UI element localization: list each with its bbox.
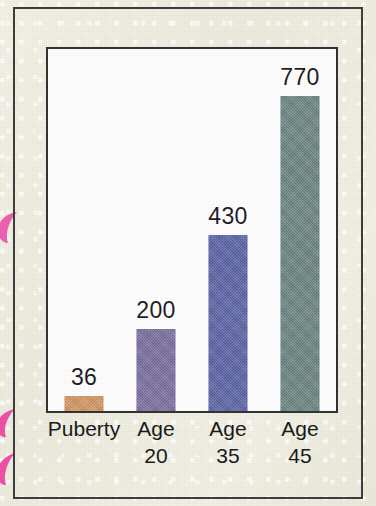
- x-label-age-35-line1: Age: [209, 417, 246, 440]
- bar-chart: 36 200 430 770: [46, 47, 338, 413]
- bar-fill-1: [137, 329, 176, 411]
- x-axis-category-labels: Puberty Age 20 Age 35 Age 45: [46, 416, 338, 486]
- bar-value-label-0: 36: [71, 364, 97, 391]
- x-label-age-45: Age 45: [258, 416, 342, 470]
- bars-layer: 36 200 430 770: [46, 47, 338, 413]
- bar-age-35: [209, 235, 248, 411]
- bar-fill-2: [209, 235, 248, 411]
- bar-fill-3: [281, 96, 320, 411]
- x-label-age-45-line1: Age: [281, 417, 318, 440]
- bar-age-20: [137, 329, 176, 411]
- x-label-puberty-line1: Puberty: [48, 417, 120, 440]
- bar-fill-0: [65, 396, 104, 411]
- x-label-age-45-line2: 45: [258, 443, 342, 470]
- bar-puberty: [65, 396, 104, 411]
- bar-value-label-2: 430: [208, 203, 247, 230]
- x-label-age-20-line1: Age: [137, 417, 174, 440]
- bar-age-45: [281, 96, 320, 411]
- bar-value-label-1: 200: [136, 297, 175, 324]
- bar-value-label-3: 770: [280, 64, 319, 91]
